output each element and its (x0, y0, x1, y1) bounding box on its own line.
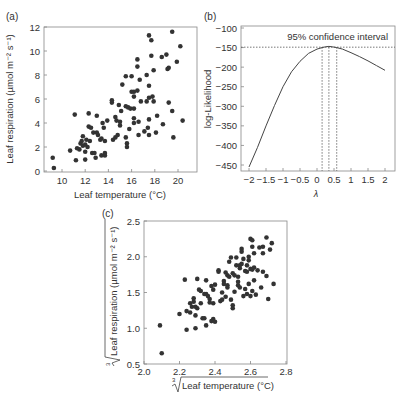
data-point (50, 156, 55, 161)
data-point (149, 38, 154, 43)
data-point (238, 285, 243, 290)
data-point (248, 294, 253, 299)
data-point (100, 121, 105, 126)
data-point (246, 258, 251, 263)
data-point (81, 134, 86, 139)
data-point (180, 118, 185, 123)
data-point (132, 106, 137, 111)
data-point (220, 297, 225, 302)
y-tick-label: −200 (216, 62, 237, 73)
data-point (159, 55, 164, 60)
panel-b-frame (241, 26, 395, 171)
data-point (261, 244, 266, 249)
y-tick-label: 6 (35, 94, 40, 105)
y-tick-label: 0 (35, 166, 40, 177)
data-point (147, 84, 152, 89)
data-point (193, 313, 198, 318)
data-point (159, 351, 164, 356)
data-point (132, 116, 137, 121)
panel-a-x-axis-label: Leaf temperature (°C) (74, 189, 166, 200)
data-point (135, 64, 140, 69)
data-point (230, 306, 235, 311)
panel-a-points (50, 30, 185, 171)
data-point (110, 100, 115, 105)
data-point (178, 44, 183, 49)
data-point (261, 269, 266, 274)
x-tick-label: 2.4 (208, 366, 221, 377)
y-tick-label: −300 (216, 101, 237, 112)
x-tick-label: −1 (278, 174, 289, 185)
panel-b-x-axis-label: λ (313, 189, 318, 199)
data-point (170, 109, 175, 114)
data-point (264, 235, 269, 240)
data-point (154, 130, 159, 135)
log-likelihood-curve (249, 46, 385, 167)
data-point (261, 251, 266, 256)
x-tick-label: 1.5 (361, 174, 374, 185)
data-point (227, 259, 232, 264)
data-point (239, 262, 244, 267)
data-point (199, 289, 204, 294)
data-point (213, 320, 218, 325)
data-point (115, 133, 120, 138)
y-tick-label: 2.5 (127, 216, 140, 227)
data-point (227, 274, 232, 279)
data-point (149, 54, 154, 59)
x-tick-label: 0.5 (327, 174, 340, 185)
y-tick-label: 8 (35, 70, 40, 81)
data-point (246, 282, 251, 287)
data-point (225, 285, 230, 290)
cube-root-index: 3 (172, 377, 176, 383)
data-point (85, 145, 90, 150)
data-point (72, 112, 77, 117)
x-tick-label: 16 (126, 175, 137, 186)
data-point (202, 316, 207, 321)
x-tick-label: 10 (57, 175, 68, 186)
data-point (184, 327, 189, 332)
data-point (117, 103, 122, 108)
data-point (83, 157, 88, 162)
panel-c-y-axis-label-group: 3 Leaf respiration (µmol m⁻² s⁻¹) (105, 219, 120, 366)
data-point (191, 299, 196, 304)
data-point (161, 122, 166, 127)
data-point (250, 238, 255, 243)
data-point (135, 88, 140, 93)
panel-b-y-ticks: −100−150−200−250−300−350−400−450 (216, 23, 244, 171)
data-point (232, 289, 237, 294)
data-point (79, 139, 84, 144)
data-point (127, 127, 132, 132)
data-point (88, 139, 93, 144)
data-point (147, 133, 152, 138)
data-point (271, 282, 276, 287)
data-point (146, 126, 151, 131)
data-point (250, 244, 255, 249)
x-tick-label: 12 (80, 175, 91, 186)
data-point (96, 133, 101, 138)
x-tick-label: 20 (173, 175, 184, 186)
data-point (77, 147, 82, 152)
data-point (171, 135, 176, 140)
data-point (150, 94, 155, 99)
data-point (92, 151, 97, 156)
data-point (86, 111, 91, 116)
x-tick-label: 2.8 (279, 366, 292, 377)
data-point (129, 74, 134, 79)
data-point (93, 156, 98, 161)
data-point (211, 287, 216, 292)
data-point (101, 126, 106, 131)
y-tick-label: −250 (216, 81, 237, 92)
data-point (223, 294, 228, 299)
y-tick-label: 2 (35, 142, 40, 153)
data-point (170, 30, 175, 35)
y-tick-label: 10 (29, 46, 40, 57)
x-tick-label: 0 (314, 174, 319, 185)
data-point (132, 121, 137, 126)
data-point (195, 277, 200, 282)
panel-c: (c) 0.51.01.52.02.5 2.02.22.42.62.8 3 Le… (102, 208, 293, 392)
y-tick-label: 2.0 (127, 251, 140, 262)
data-point (234, 255, 239, 260)
data-point (118, 123, 123, 128)
data-point (243, 287, 248, 292)
panel-a-y-axis-label: Leaf respiration (µmol m⁻² s⁻¹) (4, 34, 15, 164)
data-point (135, 57, 140, 62)
